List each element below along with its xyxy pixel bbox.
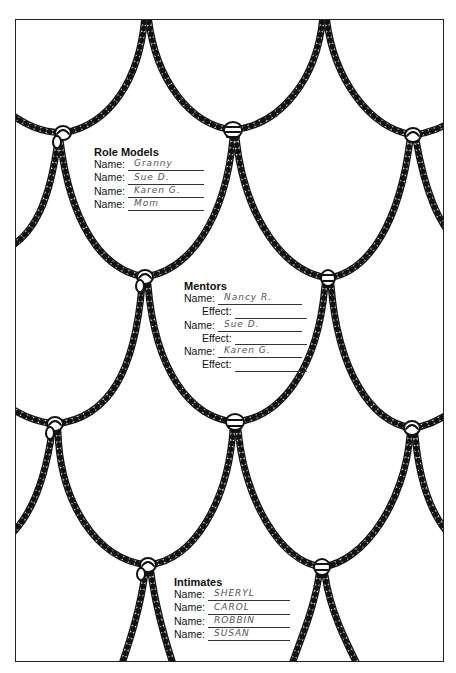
mentor-name-field[interactable]: Nancy R.: [218, 292, 302, 305]
effect-label: Effect:: [202, 332, 232, 345]
name-label: Name:: [94, 158, 125, 171]
knot: [226, 414, 244, 430]
role-model-name-field[interactable]: Mom: [128, 198, 204, 211]
name-label: Name:: [174, 628, 205, 641]
knot: [224, 122, 242, 138]
intimate-row: Name: CAROL: [174, 601, 290, 614]
role-model-row: Name: Granny: [94, 158, 204, 171]
role-model-name-field[interactable]: Granny: [128, 158, 204, 171]
role-models-title: Role Models: [94, 146, 204, 158]
mentor-effect-field[interactable]: [235, 332, 307, 345]
intimates-section: Intimates Name: SHERYL Name: CAROL Name:…: [174, 576, 290, 641]
mentor-effect-field[interactable]: [235, 359, 307, 372]
effect-label: Effect:: [202, 305, 232, 318]
intimate-name-field[interactable]: SHERYL: [208, 588, 290, 601]
name-label: Name:: [174, 601, 205, 614]
knot: [404, 421, 420, 435]
name-label: Name:: [184, 345, 215, 358]
mentors-section: Mentors Name: Nancy R. Effect: Name: Sue…: [184, 280, 307, 372]
mentor-name-field[interactable]: Sue D.: [218, 319, 302, 332]
role-model-name-field[interactable]: Sue D.: [128, 172, 204, 185]
knot: [405, 128, 421, 142]
role-model-row: Name: Mom: [94, 198, 204, 211]
role-model-name-field[interactable]: Karen G.: [128, 185, 204, 198]
name-label: Name:: [94, 171, 125, 184]
name-label: Name:: [184, 319, 215, 332]
intimates-title: Intimates: [174, 576, 290, 588]
intimate-row: Name: ROBBIN: [174, 615, 290, 628]
mentor-name-row: Name: Karen G.: [184, 345, 307, 358]
name-label: Name:: [174, 588, 205, 601]
mentor-effect-row: Effect:: [184, 332, 307, 345]
mentor-name-field[interactable]: Karen G.: [218, 345, 302, 358]
intimate-row: Name: SUSAN: [174, 628, 290, 641]
intimate-name-field[interactable]: SUSAN: [208, 628, 290, 641]
knot: [314, 559, 330, 575]
role-model-row: Name: Karen G.: [94, 185, 204, 198]
intimate-name-field[interactable]: ROBBIN: [208, 615, 290, 628]
role-models-section: Role Models Name: Granny Name: Sue D. Na…: [94, 146, 204, 211]
mentor-name-row: Name: Nancy R.: [184, 292, 307, 305]
name-label: Name:: [94, 198, 125, 211]
mentor-effect-field[interactable]: [235, 306, 307, 319]
knot: [321, 270, 335, 286]
intimate-row: Name: SHERYL: [174, 588, 290, 601]
role-model-row: Name: Sue D.: [94, 171, 204, 184]
effect-label: Effect:: [202, 358, 232, 371]
intimate-name-field[interactable]: CAROL: [208, 602, 290, 615]
mentor-name-row: Name: Sue D.: [184, 319, 307, 332]
name-label: Name:: [174, 615, 205, 628]
mentor-effect-row: Effect:: [184, 358, 307, 371]
mentors-title: Mentors: [184, 280, 307, 292]
name-label: Name:: [184, 292, 215, 305]
mentor-effect-row: Effect:: [184, 305, 307, 318]
name-label: Name:: [94, 185, 125, 198]
